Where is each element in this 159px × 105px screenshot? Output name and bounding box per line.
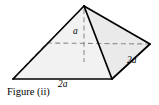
- height-label: a: [73, 27, 78, 37]
- figure-caption: Figure (ii): [7, 87, 50, 98]
- base-length-label: 2a: [58, 80, 68, 90]
- figure-container: a 2a 2a Figure (ii): [0, 0, 159, 105]
- slant-edge-label: 2a: [127, 56, 137, 66]
